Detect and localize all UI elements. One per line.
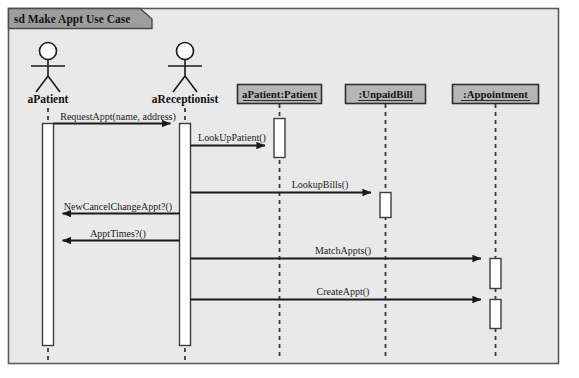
object-label-unpaidbill: :UnpaidBill	[358, 88, 412, 100]
frame-title-label: sd Make Appt Use Case	[14, 13, 130, 26]
message-label-requestappt: RequestAppt(name, address)	[60, 111, 176, 123]
activation-appointment-1	[490, 259, 501, 289]
activation-patient	[274, 119, 285, 158]
message-label-lookuppatient: LookUpPatient()	[198, 132, 266, 144]
activation-appointment-2	[490, 300, 501, 329]
message-label-appttimes: ApptTimes?()	[90, 228, 146, 240]
diagram-canvas: sd Make Appt Use Case aPatient	[0, 0, 579, 378]
actor-apatient-label: aPatient	[28, 93, 69, 105]
actor-areceptionist-label: aReceptionist	[152, 93, 219, 106]
frame-rect	[9, 9, 559, 364]
activation-areceptionist	[180, 124, 191, 346]
activation-unpaidbill-1	[380, 193, 391, 218]
message-label-matchappts: MatchAppts()	[315, 245, 371, 257]
object-label-appointment: :Appointment	[463, 88, 528, 100]
message-requestappt[interactable]: RequestAppt(name, address)	[54, 111, 176, 124]
message-label-lookupbills: LookupBills()	[292, 179, 349, 191]
object-label-patient: aPatient:Patient	[242, 88, 317, 100]
message-label-newcancelchangeappt: NewCancelChangeAppt?()	[64, 201, 172, 213]
uml-sequence-diagram: sd Make Appt Use Case aPatient	[0, 0, 579, 378]
message-label-createappt: CreateAppt()	[317, 286, 370, 298]
message-newcancelchangeappt[interactable]: NewCancelChangeAppt?()	[63, 201, 180, 214]
activation-apatient	[43, 124, 54, 346]
sequence-frame: sd Make Appt Use Case	[9, 9, 559, 364]
